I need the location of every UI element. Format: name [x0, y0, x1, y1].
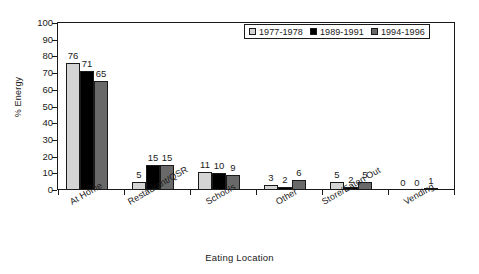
legend-label: 1994-1996 [381, 27, 425, 37]
x-axis-title: Eating Location [0, 252, 479, 263]
x-axis-tick-mark [58, 190, 59, 195]
x-axis-tick-mark [124, 190, 125, 195]
x-axis-tick-mark [388, 190, 389, 195]
legend-entry: 1977-1978 [249, 27, 303, 37]
x-axis-tick-mark [256, 190, 257, 195]
x-axis-tick-mark [454, 190, 455, 195]
legend-swatch-icon [371, 28, 378, 35]
bar-chart: % Energy 1009080706050403020100 76716551… [0, 0, 479, 274]
legend-label: 1977-1978 [259, 27, 303, 37]
chart-legend: 1977-19781989-19911994-1996 [244, 24, 430, 39]
x-axis-tick-mark [322, 190, 323, 195]
legend-swatch-icon [249, 28, 256, 35]
legend-entry: 1989-1991 [310, 27, 364, 37]
x-axis-tick-marks [0, 0, 479, 274]
x-axis-tick-mark [190, 190, 191, 195]
legend-swatch-icon [310, 28, 317, 35]
legend-label: 1989-1991 [320, 27, 364, 37]
legend-entry: 1994-1996 [371, 27, 425, 37]
